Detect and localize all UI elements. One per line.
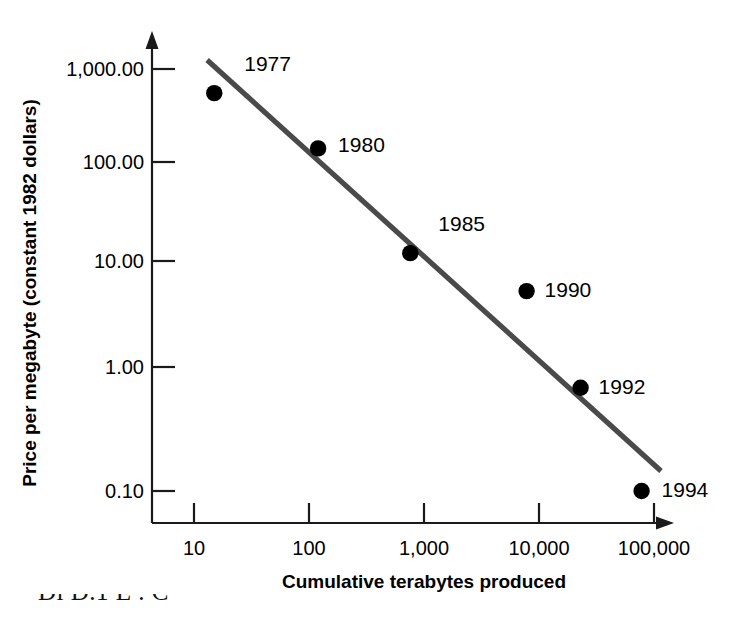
y-axis-arrowhead bbox=[146, 31, 159, 49]
data-series: 197719801985199019921994 bbox=[206, 52, 709, 501]
x-axis-arrowhead bbox=[656, 517, 674, 530]
y-tick-label-1000: 1,000.00 bbox=[66, 58, 144, 80]
caption-fragment: Di D.1 E . C bbox=[38, 594, 169, 606]
x-tick-label-100000: 100,000 bbox=[618, 537, 690, 559]
y-tick-label-10: 10.00 bbox=[94, 250, 144, 272]
y-tick-label-100: 100.00 bbox=[83, 151, 144, 173]
y-tick-label-1: 1.00 bbox=[105, 356, 144, 378]
trend-line bbox=[207, 60, 661, 471]
x-tick-label-10000: 10,000 bbox=[508, 537, 569, 559]
data-point-1977 bbox=[206, 85, 222, 101]
x-tick-label-10: 10 bbox=[183, 537, 205, 559]
x-axis-title: Cumulative terabytes produced bbox=[282, 571, 566, 592]
x-axis-ticks bbox=[194, 503, 654, 523]
y-axis-title: Price per megabyte (constant 1982 dollar… bbox=[19, 99, 40, 487]
data-point-label-1985: 1985 bbox=[438, 212, 485, 235]
x-tick-label-1000: 1,000 bbox=[399, 537, 449, 559]
data-point-1985 bbox=[402, 245, 418, 261]
y-tick-label-0.1: 0.10 bbox=[105, 480, 144, 502]
data-point-1990 bbox=[518, 283, 534, 299]
data-point-label-1990: 1990 bbox=[545, 278, 592, 301]
data-point-label-1980: 1980 bbox=[338, 133, 385, 156]
data-point-1980 bbox=[310, 140, 326, 156]
data-point-1994 bbox=[633, 483, 649, 499]
data-point-1992 bbox=[572, 380, 588, 396]
chart-figure: 1,000.00 100.00 10.00 1.00 0.10 Price pe… bbox=[0, 0, 731, 620]
x-axis-tick-labels: 10 100 1,000 10,000 100,000 bbox=[183, 537, 690, 559]
data-point-label-1977: 1977 bbox=[244, 52, 291, 75]
y-axis-ticks bbox=[152, 69, 175, 491]
caption-strip: Di D.1 E . C bbox=[0, 594, 731, 620]
y-axis-tick-labels: 1,000.00 100.00 10.00 1.00 0.10 bbox=[66, 58, 144, 502]
data-point-label-1994: 1994 bbox=[662, 478, 709, 501]
y-axis bbox=[146, 31, 159, 523]
data-point-label-1992: 1992 bbox=[599, 375, 646, 398]
x-tick-label-100: 100 bbox=[292, 537, 325, 559]
x-axis bbox=[152, 517, 674, 530]
price-vs-cumulative-terabytes-chart: 1,000.00 100.00 10.00 1.00 0.10 Price pe… bbox=[0, 0, 731, 620]
